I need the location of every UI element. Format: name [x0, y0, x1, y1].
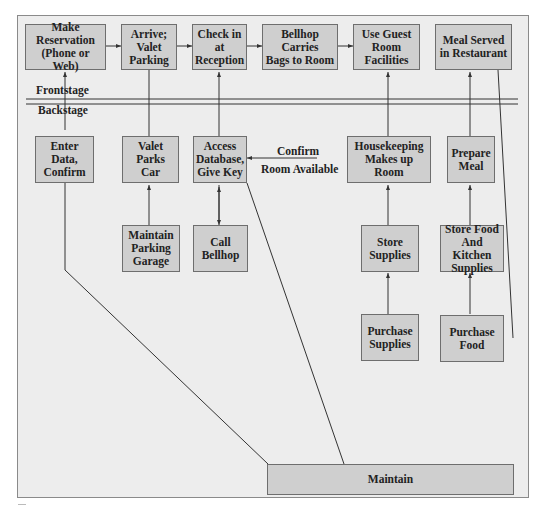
arrive-valet-parking-box: Arrive; Valet Parking: [121, 24, 177, 70]
access-database-give-key-box: Access Database, Give Key: [193, 136, 247, 183]
bellhop-carries-bags-box: Bellhop Carries Bags to Room: [262, 24, 338, 70]
valet-parks-car-box: Valet Parks Car: [122, 136, 179, 183]
frontstage-label: Frontstage: [36, 84, 89, 96]
call-bellhop-box: Call Bellhop: [193, 225, 248, 272]
page-mark: [18, 504, 26, 505]
meal-served-restaurant-box: Meal Served in Restaurant: [435, 24, 512, 70]
purchase-supplies-box: Purchase Supplies: [361, 314, 419, 361]
store-food-kitchen-supplies-box: Store Food And Kitchen Supplies: [440, 225, 504, 272]
store-supplies-box: Store Supplies: [361, 225, 419, 272]
use-guest-room-facilities-box: Use Guest Room Facilities: [353, 24, 420, 70]
maintain-box: Maintain: [267, 464, 514, 495]
room-available-edge-label: Room Available: [261, 163, 338, 175]
purchase-food-box: Purchase Food: [440, 315, 504, 362]
prepare-meal-box: Prepare Meal: [447, 136, 495, 183]
make-reservation-box: Make Reservation (Phone or Web): [25, 24, 106, 70]
enter-data-confirm-box: Enter Data, Confirm: [35, 136, 94, 183]
housekeeping-makes-up-room-box: Housekeeping Makes up Room: [347, 136, 431, 183]
check-in-reception-box: Check in at Reception: [192, 24, 247, 70]
maintain-parking-garage-box: Maintain Parking Garage: [122, 225, 180, 272]
backstage-label: Backstage: [38, 104, 88, 116]
confirm-edge-label: Confirm: [277, 145, 319, 157]
